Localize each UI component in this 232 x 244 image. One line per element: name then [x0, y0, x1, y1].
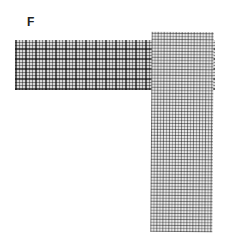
- panel-label: F: [27, 15, 34, 29]
- vertical-fabric-strip: [150, 32, 213, 232]
